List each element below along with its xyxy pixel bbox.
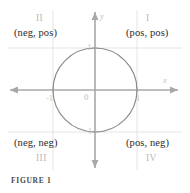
y-tick-label-negative-1: -1: [85, 127, 92, 136]
figure-caption: FIGURE 1: [11, 176, 51, 185]
quadrant-1-roman: I: [146, 14, 150, 24]
y-tick-label-positive-1: 1: [87, 43, 91, 52]
x-axis: [10, 87, 178, 94]
x-tick-label-positive-1: 1: [136, 94, 140, 103]
quadrant-3-roman: III: [36, 154, 47, 164]
origin-label: 0: [84, 93, 89, 102]
quadrant-2-signs: (neg, pos): [14, 28, 57, 39]
y-axis-label: y: [100, 12, 104, 21]
quadrant-4-signs: (pos, neg): [126, 138, 169, 149]
x-tick-label-negative-1: -1: [46, 94, 53, 103]
x-axis-arrow-left: [10, 87, 18, 94]
figure-container: II (neg, pos) I (pos, pos) (neg, neg) II…: [0, 0, 190, 193]
quadrant-1-signs: (pos, pos): [126, 28, 168, 39]
quadrant-2-roman: II: [36, 14, 43, 24]
y-axis-arrow-down: [92, 160, 99, 168]
y-axis-arrow-up: [92, 12, 99, 20]
quadrant-3-signs: (neg, neg): [14, 138, 58, 149]
x-axis-arrow-right: [170, 87, 178, 94]
x-axis-label: x: [163, 76, 167, 85]
quadrant-4-roman: IV: [146, 154, 157, 164]
